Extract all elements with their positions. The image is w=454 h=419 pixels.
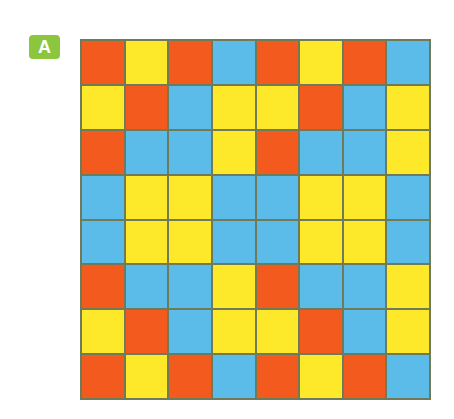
grid-cell bbox=[125, 220, 169, 265]
grid-cell bbox=[386, 220, 430, 265]
grid-cell bbox=[386, 40, 430, 85]
grid-cell bbox=[212, 40, 256, 85]
label-badge: A bbox=[29, 35, 60, 59]
grid-cell bbox=[299, 220, 343, 265]
grid-cell bbox=[343, 220, 387, 265]
grid-cell bbox=[386, 130, 430, 175]
grid-cell bbox=[256, 40, 300, 85]
grid-cell bbox=[125, 309, 169, 354]
grid-cell bbox=[168, 309, 212, 354]
grid-cell bbox=[343, 40, 387, 85]
grid-cell bbox=[212, 264, 256, 309]
grid-cell bbox=[125, 264, 169, 309]
grid-cell bbox=[125, 354, 169, 399]
color-grid bbox=[80, 39, 431, 400]
grid-cell bbox=[212, 175, 256, 220]
grid-cell bbox=[343, 175, 387, 220]
grid-cell bbox=[125, 85, 169, 130]
grid-cell bbox=[81, 354, 125, 399]
grid-cell bbox=[256, 220, 300, 265]
grid-cell bbox=[256, 85, 300, 130]
grid-cell bbox=[125, 40, 169, 85]
grid-cell bbox=[299, 175, 343, 220]
grid-cell bbox=[256, 264, 300, 309]
grid-cell bbox=[125, 175, 169, 220]
grid-cell bbox=[81, 85, 125, 130]
grid-cell bbox=[256, 130, 300, 175]
grid-cell bbox=[386, 175, 430, 220]
grid-cell bbox=[168, 264, 212, 309]
grid-cell bbox=[256, 309, 300, 354]
grid-cell bbox=[343, 264, 387, 309]
grid-cell bbox=[386, 85, 430, 130]
grid-cell bbox=[81, 130, 125, 175]
grid-cell bbox=[343, 85, 387, 130]
grid-cell bbox=[81, 220, 125, 265]
grid-cell bbox=[299, 40, 343, 85]
grid-cell bbox=[386, 354, 430, 399]
grid-cell bbox=[386, 264, 430, 309]
grid-cell bbox=[168, 85, 212, 130]
grid-cell bbox=[256, 354, 300, 399]
grid-cell bbox=[81, 264, 125, 309]
grid-cell bbox=[299, 85, 343, 130]
grid-cell bbox=[81, 175, 125, 220]
grid-cell bbox=[299, 309, 343, 354]
grid-cell bbox=[81, 40, 125, 85]
grid-cell bbox=[168, 130, 212, 175]
grid-cell bbox=[256, 175, 300, 220]
grid-cell bbox=[343, 354, 387, 399]
grid-cell bbox=[212, 130, 256, 175]
grid-cell bbox=[299, 264, 343, 309]
grid-cell bbox=[343, 130, 387, 175]
grid-cell bbox=[212, 354, 256, 399]
grid-cell bbox=[212, 309, 256, 354]
grid-cell bbox=[168, 40, 212, 85]
grid-cell bbox=[386, 309, 430, 354]
grid-cell bbox=[81, 309, 125, 354]
grid-cell bbox=[168, 354, 212, 399]
grid-cell bbox=[212, 85, 256, 130]
grid-cell bbox=[168, 175, 212, 220]
grid-cell bbox=[299, 354, 343, 399]
grid-cell bbox=[168, 220, 212, 265]
grid-cell bbox=[212, 220, 256, 265]
grid-cell bbox=[125, 130, 169, 175]
grid-cell bbox=[343, 309, 387, 354]
grid-cell bbox=[299, 130, 343, 175]
